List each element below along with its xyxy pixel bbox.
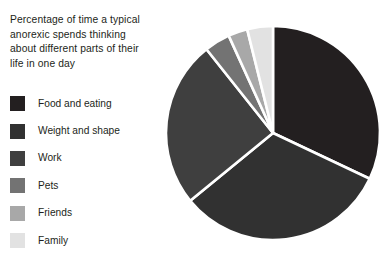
legend-swatch-icon [10, 206, 25, 221]
legend-item-label: Food and eating [38, 98, 112, 110]
legend-swatch-icon [10, 233, 25, 248]
legend-item-label: Work [38, 152, 62, 164]
legend-swatch-icon [10, 151, 25, 166]
legend-item-label: Family [38, 235, 68, 247]
legend-item-food-and-eating[interactable]: Food and eating [10, 90, 160, 117]
pie-chart-infographic: Percentage of time a typical anorexic sp… [0, 0, 391, 260]
chart-legend: Food and eating Weight and shape Work Pe… [10, 90, 160, 254]
legend-item-friends[interactable]: Friends [10, 200, 160, 227]
pie-chart-svg [160, 20, 386, 250]
legend-item-label: Friends [38, 207, 72, 219]
legend-swatch-icon [10, 178, 25, 193]
legend-swatch-icon [10, 124, 25, 139]
legend-item-pets[interactable]: Pets [10, 172, 160, 199]
chart-title: Percentage of time a typical anorexic sp… [10, 13, 162, 71]
legend-item-label: Pets [38, 180, 58, 192]
pie-chart [160, 20, 386, 250]
legend-item-label: Weight and shape [38, 125, 120, 137]
legend-item-weight-and-shape[interactable]: Weight and shape [10, 117, 160, 144]
legend-swatch-icon [10, 96, 25, 111]
legend-item-work[interactable]: Work [10, 145, 160, 172]
legend-item-family[interactable]: Family [10, 227, 160, 254]
